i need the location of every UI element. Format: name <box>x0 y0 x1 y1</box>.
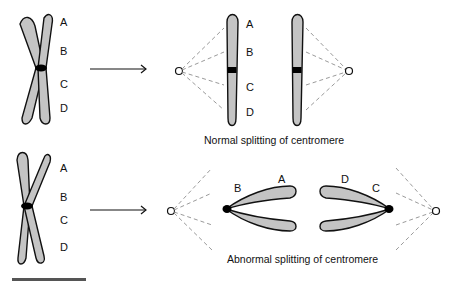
label-c: C <box>60 78 68 90</box>
caption-abnormal: Abnormal splitting of centromere <box>227 253 378 265</box>
label-d: D <box>60 241 68 253</box>
label-c: C <box>246 81 254 93</box>
row1-mother-chromosome <box>20 15 52 124</box>
arrow-row2 <box>90 206 146 214</box>
centromere <box>35 65 47 72</box>
spindle-pole-right <box>346 68 353 75</box>
label-d: D <box>246 106 254 118</box>
label-a: A <box>60 16 68 28</box>
abnormal-chromosome-right <box>320 186 394 231</box>
spindle-fibers-left <box>174 168 212 250</box>
daughter-chromosome-left <box>227 15 238 126</box>
label-a: A <box>60 162 68 174</box>
label-b: B <box>246 46 253 58</box>
spindle-fibers-left <box>182 28 224 110</box>
centromere <box>223 205 232 213</box>
label-b: B <box>60 191 67 203</box>
label-b: B <box>60 45 67 57</box>
daughter-chromosome-right <box>292 15 303 126</box>
caption-normal: Normal splitting of centromere <box>204 134 344 146</box>
label-d: D <box>60 102 68 114</box>
row2-mother-chromosome <box>17 153 50 265</box>
spindle-pole-left <box>168 208 175 215</box>
arm-label-c: C <box>372 182 380 194</box>
spindle-pole-left <box>176 68 183 75</box>
arm-label-d: D <box>341 173 349 185</box>
label-a: A <box>246 18 254 30</box>
spindle-fibers-right <box>306 28 346 110</box>
arrow-row1 <box>90 65 146 73</box>
centromere <box>228 67 237 73</box>
spindle-pole-right <box>433 208 440 215</box>
arm-label-a: A <box>278 173 286 185</box>
arm-label-b: B <box>234 182 241 194</box>
centromere <box>293 67 302 73</box>
centromere <box>385 205 394 213</box>
spindle-fibers-right <box>396 168 433 250</box>
centromere <box>21 203 33 210</box>
centromere-diagram: A B C D A B C D Normal splitting of cent… <box>0 0 458 281</box>
label-c: C <box>60 214 68 226</box>
